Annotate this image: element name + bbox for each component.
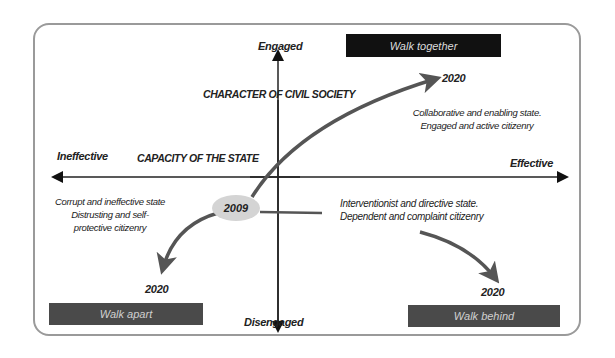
walk-behind-desc-line1: Interventionist and directive state. (340, 197, 530, 210)
walk-together-desc-line2: Engaged and active citizenry (397, 119, 557, 132)
walk-apart-desc-line1: Corrupt and ineffective state (40, 195, 180, 208)
walk-behind-box: Walk behind (408, 305, 560, 327)
walk-apart-year: 2020 (145, 283, 168, 295)
walk-together-year: 2020 (442, 72, 465, 84)
walk-behind-year: 2020 (481, 286, 504, 298)
arrow-to-walk-behind (420, 232, 495, 278)
walk-behind-label: Walk behind (454, 310, 514, 322)
disengaged-label: Disengaged (244, 316, 303, 328)
walk-apart-box: Walk apart (49, 303, 203, 325)
walk-apart-desc-line2: Distrusting and self- (40, 208, 180, 221)
walk-together-desc-line1: Collaborative and enabling state. (397, 106, 557, 119)
walk-apart-description: Corrupt and ineffective state Distrustin… (40, 195, 180, 234)
walk-behind-description: Interventionist and directive state. Dep… (340, 197, 530, 223)
engaged-label: Engaged (258, 40, 302, 52)
effective-label: Effective (510, 157, 553, 169)
ineffective-label: Ineffective (57, 150, 108, 162)
walk-together-label: Walk together (390, 40, 458, 52)
walk-apart-label: Walk apart (100, 308, 152, 320)
walk-behind-desc-line2: Dependent and complaint citizenry (340, 210, 530, 223)
walk-together-description: Collaborative and enabling state. Engage… (397, 106, 557, 132)
walk-together-box: Walk together (346, 34, 501, 57)
origin-year: 2009 (224, 202, 248, 214)
line-to-walk-behind (260, 212, 322, 213)
civil-society-axis-title: CHARACTER OF CIVIL SOCIETY (203, 88, 355, 100)
state-capacity-axis-title: CAPACITY OF THE STATE (137, 152, 259, 164)
origin-2009-ellipse: 2009 (212, 195, 260, 221)
walk-apart-desc-line3: protective citizenry (40, 221, 180, 234)
